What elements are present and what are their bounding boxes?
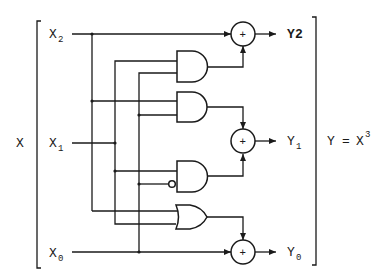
xor-gate-y1: + [231, 129, 255, 153]
or-gate [176, 205, 207, 229]
xor-gate-y0: + [231, 240, 255, 264]
output-y2-label: Y 2 [287, 27, 303, 42]
x1-rail [115, 61, 177, 224]
right-bracket [312, 17, 316, 265]
svg-text:+: + [240, 28, 246, 40]
input-x0-label: X 0 [49, 246, 63, 264]
svg-text:=: = [342, 134, 350, 149]
x0-rail [139, 73, 177, 252]
svg-text:X: X [49, 27, 57, 42]
input-x2-label: X 2 [49, 27, 63, 45]
circuit-diagram: X X 2 X 1 X 0 [0, 0, 389, 280]
and-gate-1 [177, 51, 207, 82]
svg-text:+: + [240, 135, 246, 147]
svg-text:Y: Y [287, 27, 295, 42]
svg-text:3: 3 [365, 130, 370, 140]
input-vector-label: X [16, 136, 24, 151]
svg-text:1: 1 [296, 142, 301, 152]
and-gate-3 [177, 161, 208, 192]
svg-text:Y: Y [287, 245, 295, 260]
svg-text:0: 0 [296, 253, 301, 263]
svg-text:+: + [240, 246, 246, 258]
and-gate-2 [177, 92, 207, 122]
svg-text:X: X [49, 246, 57, 261]
left-bracket [37, 21, 41, 268]
or-output [207, 217, 243, 240]
svg-text:X: X [356, 134, 364, 149]
svg-text:0: 0 [58, 254, 63, 264]
svg-text:2: 2 [295, 27, 303, 42]
xor-gate-y2: + [231, 22, 255, 46]
output-y1-label: Y 1 [287, 134, 301, 152]
and3-output [207, 154, 243, 176]
svg-text:2: 2 [58, 35, 63, 45]
svg-text:X: X [49, 136, 57, 151]
and2-output [207, 107, 243, 129]
inverter-bubble [169, 181, 176, 188]
svg-text:1: 1 [58, 144, 63, 154]
input-x1-label: X 1 [49, 136, 63, 154]
svg-text:Y: Y [287, 134, 295, 149]
and1-output [207, 46, 243, 67]
output-y0-label: Y 0 [287, 245, 301, 263]
equation-label: Y = X 3 [327, 130, 370, 149]
svg-text:Y: Y [327, 134, 335, 149]
